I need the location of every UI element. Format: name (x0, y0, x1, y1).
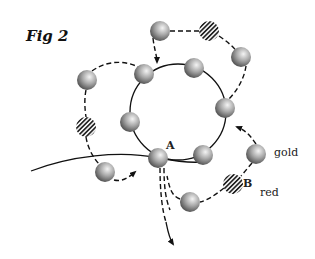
chain-left-down (85, 90, 86, 117)
exit-dashed-1 (160, 168, 166, 222)
exit-dashed-2 (164, 168, 170, 210)
red-sphere (199, 21, 219, 41)
chain-right-down (228, 66, 246, 100)
gold-sphere (120, 112, 140, 132)
label-gold: gold (274, 146, 298, 159)
gold-sphere (95, 162, 115, 182)
red-sphere-b (223, 174, 243, 194)
gold-sphere (215, 98, 235, 118)
gold-sphere (184, 58, 204, 78)
label-b: B (243, 177, 252, 190)
gold-sphere (180, 192, 200, 212)
gold-sphere (150, 21, 170, 41)
gold-sphere (134, 64, 154, 84)
gold-sphere-a (148, 148, 168, 168)
gold-sphere (193, 145, 213, 165)
red-sphere (76, 117, 96, 137)
chain-left-top (92, 62, 140, 71)
label-red: red (260, 186, 279, 199)
gold-sphere-legend (246, 144, 266, 164)
chain-to-a (114, 172, 135, 181)
chain-b-to-bottom (200, 188, 224, 202)
chain-top-to-ring (153, 38, 157, 62)
incoming-trajectory-line (31, 154, 200, 171)
chain-left-down2 (86, 137, 100, 165)
gold-sphere (77, 70, 97, 90)
gold-sphere (231, 47, 251, 67)
label-a: A (166, 139, 175, 152)
chain-gold-to-b (241, 163, 252, 176)
chain-gold-to-ring (237, 127, 256, 144)
exit-trajectory (166, 222, 173, 244)
chain-bottom-to-a (167, 176, 180, 199)
diagram-canvas (0, 0, 315, 259)
